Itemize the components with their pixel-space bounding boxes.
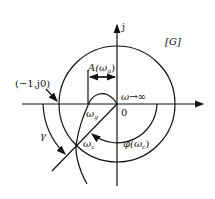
phase-label: φ(ωc): [123, 138, 149, 150]
origin-label: 0: [121, 107, 127, 118]
nyquist-diagram: j [G] (−1,j0) A(ωg) ω→∞ 0 ωg ωc φ(ωc) γ: [0, 0, 215, 199]
omega-g-label: ωg: [86, 108, 98, 121]
phase-margin-label: γ: [40, 130, 46, 141]
omega-c-label: ωc: [83, 138, 95, 150]
plane-label: [G]: [165, 36, 181, 47]
phase-margin-arc: [43, 104, 65, 154]
omega-infinity-label: ω→∞: [121, 91, 146, 102]
critical-point-pointer: [46, 89, 57, 101]
critical-point-label: (−1,j0): [15, 78, 50, 89]
gain-label: A(ωg): [87, 62, 115, 75]
imag-axis-label: j: [121, 21, 125, 32]
